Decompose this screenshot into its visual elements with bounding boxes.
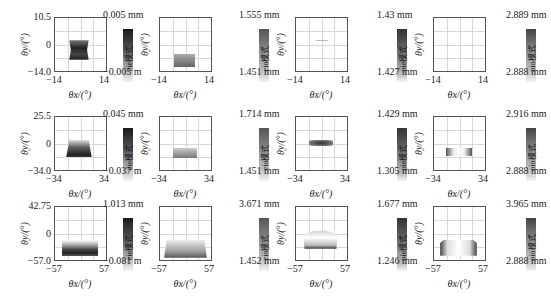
heatmap-plot — [433, 206, 486, 261]
x-tick-max: 14 — [340, 75, 350, 85]
x-tick-min: −34 — [425, 174, 441, 184]
x-axis-label: θx/(°) — [448, 188, 471, 199]
x-axis-label: θx/(°) — [69, 188, 92, 199]
y-axis-label: θy/(°) — [139, 213, 150, 253]
y-axis-label: θy/(°) — [413, 24, 424, 64]
x-axis-label: θx/(°) — [310, 278, 333, 289]
colorbar-min-label: 1.305 mm — [377, 166, 418, 176]
intensity-region — [164, 238, 207, 258]
grid-line — [434, 157, 485, 158]
grid-line — [55, 130, 106, 131]
x-axis-label: θx/(°) — [310, 188, 333, 199]
grid-line — [160, 144, 211, 145]
colorbar-max-label: 1.714 mm — [239, 109, 280, 119]
grid-line — [55, 31, 106, 32]
y-tick-max: 10.5 — [11, 12, 51, 22]
intensity-region — [66, 140, 92, 157]
x-tick-max: 34 — [204, 174, 214, 184]
x-tick-max: 14 — [478, 75, 488, 85]
colorbar-max-label: 1.013 mm — [103, 199, 144, 209]
heatmap-plot — [159, 206, 212, 261]
y-axis-label: θy/(°) — [139, 123, 150, 163]
intensity-region — [174, 54, 194, 67]
x-axis-label: θx/(°) — [310, 89, 333, 100]
colorbar-max-label: 2.916 mm — [506, 109, 547, 119]
heatmap-plot — [159, 116, 212, 171]
intensity-region — [173, 148, 197, 159]
grid-line — [160, 45, 211, 46]
grid-line — [160, 31, 211, 32]
x-tick-min: −14 — [287, 75, 303, 85]
colorbar-max-label: 1.555 mm — [239, 10, 280, 20]
x-axis-label: θx/(°) — [174, 89, 197, 100]
y-axis-label: θy/(°) — [19, 24, 30, 64]
x-tick-min: −57 — [151, 264, 167, 274]
y-axis-label: θy/(°) — [19, 213, 30, 253]
colorbar-max-label: 3.671 mm — [239, 199, 280, 209]
heatmap-plot — [433, 17, 486, 72]
x-axis-label: θx/(°) — [174, 278, 197, 289]
grid-line — [296, 130, 347, 131]
y-axis-label: θy/(°) — [413, 123, 424, 163]
y-tick-min: −14.0 — [11, 67, 51, 77]
colorbar-max-label: 0.005 mm — [103, 10, 144, 20]
x-tick-min: −34 — [151, 174, 167, 184]
heatmap-plot — [54, 116, 107, 171]
grid-line — [160, 234, 211, 235]
x-tick-min: −34 — [46, 174, 62, 184]
heatmap-plot — [295, 206, 348, 261]
x-tick-min: −14 — [46, 75, 62, 85]
colorbar-min-label: 1.451 mm — [239, 166, 280, 176]
colorbar-max-label: 1.43 mm — [377, 10, 413, 20]
y-axis-label: θy/(°) — [19, 123, 30, 163]
intensity-region — [69, 40, 88, 60]
x-axis-label: θx/(°) — [448, 278, 471, 289]
colorbar-max-label: 0.045 mm — [103, 109, 144, 119]
y-axis-label: θy/(°) — [275, 24, 286, 64]
grid-line — [296, 45, 347, 46]
colorbar-max-label: 3.965 mm — [506, 199, 547, 209]
heatmap-plot — [54, 206, 107, 261]
grid-line — [434, 45, 485, 46]
colorbar-min-label: −0.005 m — [103, 67, 141, 77]
x-tick-max: 57 — [204, 264, 214, 274]
grid-line — [434, 220, 485, 221]
grid-line — [296, 58, 347, 59]
x-tick-max: 57 — [478, 264, 488, 274]
x-tick-min: −57 — [46, 264, 62, 274]
grid-line — [434, 234, 485, 235]
colorbar-min-label: −0.037 m — [103, 166, 141, 176]
y-axis-label: θy/(°) — [413, 213, 424, 253]
x-axis-label: θx/(°) — [69, 278, 92, 289]
colorbar-max-label: 2.889 mm — [506, 10, 547, 20]
x-tick-min: −34 — [287, 174, 303, 184]
heatmap-plot — [295, 17, 348, 72]
heatmap-plot — [433, 116, 486, 171]
x-tick-min: −57 — [425, 264, 441, 274]
y-axis-label: θy/(°) — [275, 213, 286, 253]
intensity-region — [440, 240, 477, 256]
x-axis-label: θx/(°) — [448, 89, 471, 100]
grid-line — [434, 31, 485, 32]
intensity-region — [316, 40, 327, 41]
grid-line — [160, 220, 211, 221]
grid-line — [55, 220, 106, 221]
x-tick-min: −14 — [425, 75, 441, 85]
grid-line — [55, 234, 106, 235]
x-tick-max: 57 — [340, 264, 350, 274]
colorbar-min-label: 2.888 mm — [506, 67, 547, 77]
colorbar-min-label: 2.888 mm — [506, 256, 547, 266]
grid-line — [296, 157, 347, 158]
y-tick-max: 25.5 — [11, 111, 51, 121]
y-tick-zero: 0 — [11, 139, 51, 149]
heatmap-plot — [54, 17, 107, 72]
y-tick-zero: 0 — [11, 229, 51, 239]
grid-line — [434, 130, 485, 131]
y-tick-zero: 0 — [11, 40, 51, 50]
x-tick-min: −57 — [287, 264, 303, 274]
x-tick-min: −14 — [151, 75, 167, 85]
y-tick-min: −57.0 — [11, 256, 51, 266]
grid-line — [434, 58, 485, 59]
colorbar-min-label: 1.427 mm — [377, 67, 418, 77]
grid-line — [296, 31, 347, 32]
